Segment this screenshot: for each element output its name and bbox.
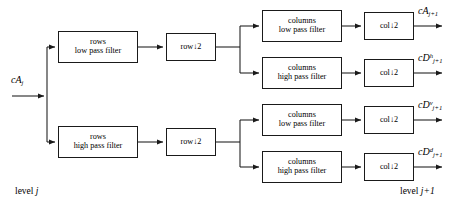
output-ca-sub: j+1	[429, 10, 439, 17]
level-left-text: level	[15, 186, 33, 196]
level-right-index: j+1	[421, 186, 435, 196]
input-signal-sub: j	[22, 79, 24, 86]
output-cdv-name: cD	[418, 99, 430, 110]
level-label-left: level j	[15, 186, 38, 196]
box-cols-low-1-line2: low pass filter	[279, 26, 325, 35]
box-rows-high-line2: high pass filter	[74, 142, 123, 151]
output-label-cd-h: cDhj+1	[418, 52, 443, 64]
output-cdv-sub: j+1	[433, 104, 443, 111]
box-col-downsample-4-label: col↓2	[380, 163, 398, 172]
box-rows-low-line2: low pass filter	[75, 47, 121, 56]
wavelet-decomposition-diagram: rows low pass filter rows high pass filt…	[0, 0, 470, 213]
box-row-downsample-bottom: row↓2	[166, 128, 216, 156]
output-label-ca: cAj+1	[418, 5, 438, 17]
output-cdd-sub: j+1	[433, 151, 443, 158]
box-rows-high-pass-filter: rows high pass filter	[58, 126, 138, 158]
output-cdh-name: cD	[418, 52, 430, 63]
box-cols-low-2-line2: low pass filter	[279, 120, 325, 129]
output-cdh-sub: j+1	[433, 57, 443, 64]
input-signal-label: cAj	[11, 74, 23, 86]
box-rows-low-pass-filter: rows low pass filter	[58, 31, 138, 63]
box-columns-high-pass-filter-2: columns high pass filter	[262, 151, 342, 183]
box-columns-low-pass-filter-1: columns low pass filter	[262, 10, 342, 42]
level-left-index: j	[36, 186, 39, 196]
level-label-right: level j+1	[400, 186, 435, 196]
box-col-downsample-2-label: col↓2	[380, 69, 398, 78]
input-signal-name: cA	[11, 74, 22, 85]
box-cols-high-1-line2: high pass filter	[278, 73, 327, 82]
box-row-downsample-top-label: row↓2	[181, 43, 202, 52]
box-col-downsample-4: col↓2	[364, 153, 414, 181]
box-col-downsample-3-label: col↓2	[380, 116, 398, 125]
box-columns-low-pass-filter-2: columns low pass filter	[262, 104, 342, 136]
box-col-downsample-3: col↓2	[364, 106, 414, 134]
box-row-downsample-bottom-label: row↓2	[181, 138, 202, 147]
box-col-downsample-1: col↓2	[364, 12, 414, 40]
level-right-text: level	[400, 186, 418, 196]
box-row-downsample-top: row↓2	[166, 33, 216, 61]
output-cdd-name: cD	[418, 146, 430, 157]
box-cols-high-2-line2: high pass filter	[278, 167, 327, 176]
output-label-cd-v: cDvj+1	[418, 99, 442, 111]
output-label-cd-d: cDdj+1	[418, 146, 443, 158]
box-col-downsample-1-label: col↓2	[380, 22, 398, 31]
output-ca-name: cA	[418, 5, 429, 16]
box-col-downsample-2: col↓2	[364, 59, 414, 87]
box-columns-high-pass-filter-1: columns high pass filter	[262, 57, 342, 89]
